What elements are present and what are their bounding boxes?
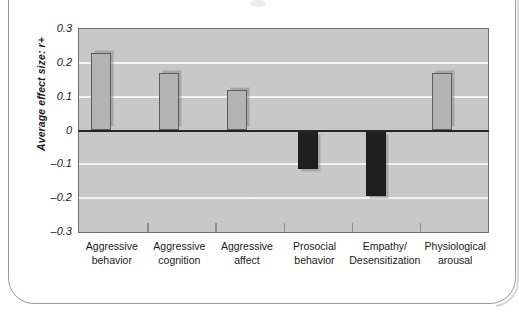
y-tick-label: 0.2 [26,56,72,68]
gridline [79,62,488,64]
category-label-line1: Physiological [425,240,486,252]
bar [91,53,111,131]
gridline [79,197,488,199]
category-label-line1: Aggressive [221,240,273,252]
x-axis-tick [420,223,421,232]
x-axis-tick [352,223,353,232]
x-axis-tick [215,223,216,232]
category-label-line2: Desensitization [349,254,420,268]
x-axis-category-label: Physiologicalarousal [421,240,489,288]
category-label-line2: affect [214,254,280,268]
x-axis-category-label: Aggressivebehavior [78,240,146,288]
y-axis-tick-labels: 0.30.20.10–0.1–0.2–0.3 [26,0,72,319]
y-tick-label: –0.1 [26,157,72,169]
bar [432,73,452,131]
gridline [79,96,488,98]
category-label-line1: Aggressive [153,240,205,252]
bar [366,131,386,197]
bar [298,131,318,170]
x-axis-category-label: Aggressiveaffect [213,240,281,288]
category-label-line2: cognition [147,254,213,268]
category-label-line2: behavior [282,254,348,268]
category-label-line2: behavior [79,254,145,268]
bar [159,73,179,131]
x-axis-tick [147,223,148,232]
x-axis-category-labels: AggressivebehaviorAggressivecognitionAgg… [78,240,489,288]
y-tick-label: 0.1 [26,90,72,102]
y-tick-label: 0 [26,124,72,136]
category-label-line1: Prosocial [293,240,336,252]
y-tick-label: –0.2 [26,191,72,203]
category-label-line1: Empathy/ [363,240,407,252]
category-label-line1: Aggressive [86,240,138,252]
x-axis-tick [284,223,285,232]
category-label-line2: arousal [422,254,488,268]
plot-area [78,28,489,233]
y-tick-label: 0.3 [26,22,72,34]
x-axis-category-label: Aggressivecognition [146,240,214,288]
gridline [79,163,488,165]
zero-baseline [78,130,489,132]
x-axis-category-label: Empathy/Desensitization [348,240,421,288]
y-tick-label: –0.3 [26,225,72,237]
bar [227,90,247,131]
x-axis-category-label: Prosocialbehavior [281,240,349,288]
